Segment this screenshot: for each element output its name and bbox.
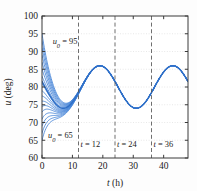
y-axis-title: u (deg) — [3, 78, 14, 105]
x-tick-label: 40 — [159, 161, 169, 171]
x-tick-label: 30 — [129, 161, 139, 171]
x-axis-tick-labels: 010203040 — [40, 161, 169, 171]
marker-label-t12: t = 12 — [81, 140, 101, 149]
y-tick-label: 95 — [29, 29, 39, 39]
y-tick-label: 85 — [29, 65, 39, 75]
x-tick-label: 10 — [68, 161, 78, 171]
y-tick-label: 75 — [29, 100, 39, 110]
marker-label-t24: t = 24 — [117, 140, 137, 149]
x-tick-label: 0 — [40, 161, 45, 171]
x-axis-title: t (h) — [107, 178, 123, 189]
y-tick-label: 65 — [29, 136, 39, 146]
y-tick-label: 80 — [29, 82, 39, 92]
x-tick-label: 20 — [98, 161, 108, 171]
line-chart: 6065707580859095100 010203040 t (h) u (d… — [0, 0, 197, 191]
y-tick-label: 90 — [29, 47, 39, 57]
y-axis-tick-labels: 6065707580859095100 — [24, 11, 39, 163]
y-tick-label: 70 — [29, 118, 39, 128]
figure-panel: 6065707580859095100 010203040 t (h) u (d… — [0, 0, 197, 191]
y-tick-label: 60 — [29, 153, 39, 163]
marker-label-t36: t = 36 — [154, 140, 174, 149]
y-tick-label: 100 — [24, 11, 39, 21]
